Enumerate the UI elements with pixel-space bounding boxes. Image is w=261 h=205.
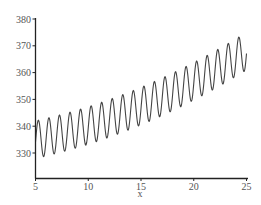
x-tick-label: 5 xyxy=(33,181,38,192)
y-tick-label: 340 xyxy=(16,121,31,132)
x-tick-label: 10 xyxy=(83,181,93,192)
y-tick-label: 370 xyxy=(16,40,31,51)
x-axis-title: x xyxy=(138,188,143,199)
y-axis-ticks: 330340350360370380 xyxy=(16,14,36,159)
y-tick-label: 330 xyxy=(16,148,31,159)
x-tick-label: 20 xyxy=(189,181,199,192)
x-tick-label: 25 xyxy=(242,181,252,192)
y-tick-label: 360 xyxy=(16,67,31,78)
line-chart: 330340350360370380 510152025 x xyxy=(0,0,261,205)
data-series-line xyxy=(36,37,247,156)
y-tick-label: 380 xyxy=(16,14,31,25)
y-tick-label: 350 xyxy=(16,94,31,105)
